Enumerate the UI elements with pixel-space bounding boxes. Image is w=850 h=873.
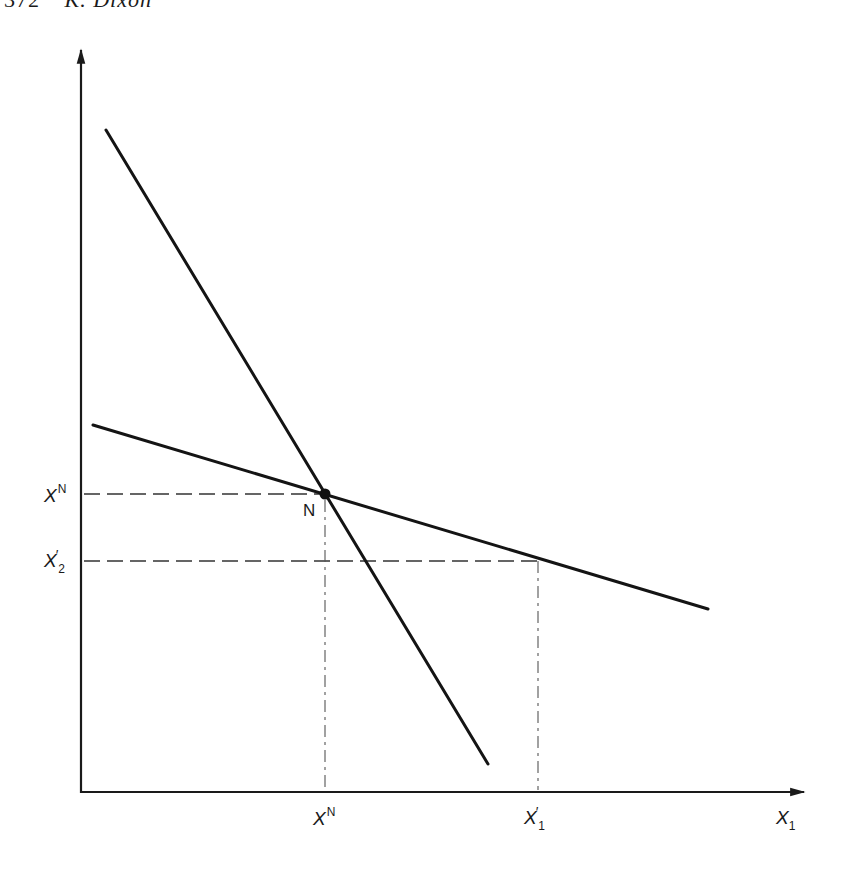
x-tick-label-x1prime: X′1 — [524, 808, 545, 831]
x-tick-xn-base: X — [313, 808, 326, 829]
x-tick-x1p-base: X — [524, 807, 537, 828]
y-tick-xn-sup: N — [58, 482, 67, 496]
x-tick-x1p-sub: 1 — [538, 819, 545, 833]
x-tick-label-xn: XN — [313, 808, 335, 828]
x-tick-xn-sup: N — [327, 805, 336, 819]
equilibrium-point-n — [320, 489, 331, 500]
y-tick-x2p-base: X — [44, 550, 57, 571]
x-axis-label-sub: 1 — [789, 819, 796, 833]
shallow-reaction-line — [93, 425, 708, 609]
point-label-n-text: N — [303, 501, 315, 520]
point-label-n: N — [303, 502, 315, 519]
x-tick-x1p-prime: ′ — [536, 804, 539, 820]
y-tick-xn-base: X — [44, 485, 57, 506]
x-axis-label: X1 — [776, 808, 795, 831]
x-axis-label-base: X — [776, 807, 789, 828]
y-tick-x2p-prime: ′ — [56, 547, 59, 563]
y-tick-x2p-sub: 2 — [58, 562, 65, 576]
y-tick-label-xn: XN — [44, 485, 66, 505]
y-tick-label-x2prime: X′2 — [44, 551, 65, 574]
reaction-function-diagram — [0, 0, 850, 873]
